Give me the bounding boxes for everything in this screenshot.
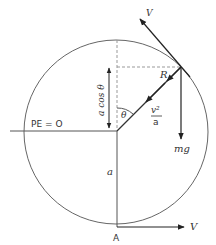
- height-label: a cos θ: [96, 84, 106, 116]
- reaction-label: R: [159, 69, 168, 80]
- reaction-arrow: [167, 67, 181, 81]
- weight-label: mg: [174, 143, 190, 154]
- vertical-circle-diagram: V R v² a mg θ a cos θ a PE = O A V: [0, 0, 216, 245]
- pe-zero-label: PE = O: [31, 119, 62, 129]
- radius-label: a: [107, 166, 113, 177]
- accel-numerator: v²: [151, 105, 160, 115]
- angle-label: θ: [121, 110, 127, 120]
- acceleration-arrow: [146, 83, 165, 102]
- velocity-bottom-label: V: [190, 221, 199, 232]
- accel-denominator: a: [153, 117, 159, 127]
- point-a-label: A: [113, 233, 120, 243]
- velocity-top-label: V: [146, 8, 154, 18]
